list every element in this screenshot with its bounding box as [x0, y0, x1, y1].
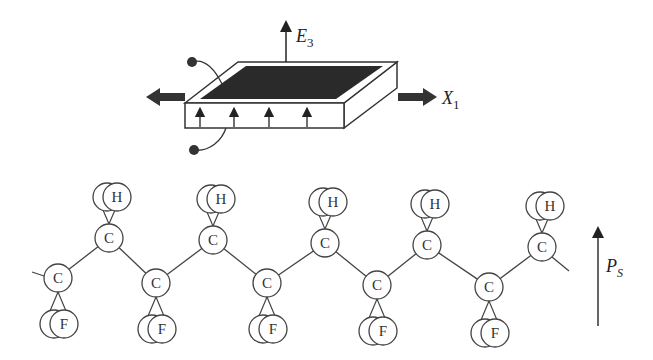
- bond: [500, 255, 531, 278]
- fluorine-label: F: [491, 325, 499, 341]
- figure-canvas: E3 X1 HCHCHCHCHCFCFCFCFCFC PS: [0, 0, 653, 360]
- carbon-label: C: [320, 235, 330, 251]
- right-stress-arrow-icon: [398, 88, 437, 106]
- carbon-label: C: [208, 232, 218, 248]
- hydrogen-label: H: [112, 189, 123, 205]
- film-front-face: [185, 103, 344, 128]
- carbon-label: C: [537, 239, 547, 255]
- bottom-terminal-icon: [189, 145, 199, 155]
- hydrogen-label: H: [216, 191, 227, 207]
- carbon-label: C: [484, 279, 494, 295]
- carbon-label: C: [372, 277, 382, 293]
- top-terminal-icon: [187, 57, 197, 67]
- polarization-label: PS: [605, 256, 623, 280]
- fluorine-label: F: [158, 321, 166, 337]
- bond: [279, 251, 314, 275]
- fluorine-label: F: [269, 321, 277, 337]
- carbon-label: C: [53, 270, 63, 286]
- bond: [69, 247, 98, 270]
- stress-label: X1: [441, 88, 460, 112]
- bond: [336, 252, 366, 276]
- carbon-label: C: [104, 230, 114, 246]
- piezo-film: E3 X1: [146, 26, 460, 155]
- bond: [119, 248, 146, 274]
- hydrogen-label: H: [545, 198, 556, 214]
- left-stress-arrow-icon: [146, 88, 185, 106]
- bottom-wire: [194, 128, 226, 150]
- pvdf-chain: HCHCHCHCHCFCFCFCFCFC: [32, 183, 569, 347]
- fluorine-label: F: [379, 323, 387, 339]
- fluorine-label: F: [60, 316, 68, 332]
- field-label: E3: [295, 26, 314, 50]
- bond: [167, 248, 202, 274]
- bond: [388, 254, 416, 277]
- hydrogen-label: H: [430, 196, 441, 212]
- hydrogen-label: H: [328, 194, 339, 210]
- bond: [439, 253, 478, 279]
- carbon-label: C: [422, 237, 432, 253]
- polarization: PS: [598, 232, 623, 326]
- carbon-label: C: [262, 275, 272, 291]
- carbon-label: C: [151, 275, 161, 291]
- bond: [224, 249, 256, 275]
